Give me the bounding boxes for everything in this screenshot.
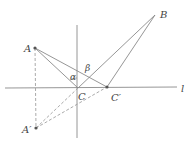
- segment-CB: [78, 15, 155, 88]
- label-C: C: [78, 91, 86, 102]
- point-C-prime: [105, 85, 108, 88]
- point-A-prime: [34, 126, 37, 129]
- label-B: B: [159, 9, 167, 20]
- segment-C-prime-B: [107, 15, 155, 87]
- diagram-canvas: A B C C′ A′ l α β: [0, 0, 190, 151]
- segment-A-prime-C-prime: [36, 87, 107, 128]
- label-alpha: α: [70, 72, 76, 82]
- label-C-prime: C′: [111, 92, 122, 103]
- segment-A-prime-C: [36, 88, 78, 128]
- point-A: [33, 46, 36, 49]
- line-l: [5, 87, 177, 88]
- geometry-diagram: A B C C′ A′ l α β: [0, 0, 190, 151]
- label-A: A: [23, 43, 31, 54]
- label-A-prime: A′: [21, 124, 32, 135]
- label-beta: β: [84, 63, 90, 73]
- label-l: l: [181, 83, 184, 94]
